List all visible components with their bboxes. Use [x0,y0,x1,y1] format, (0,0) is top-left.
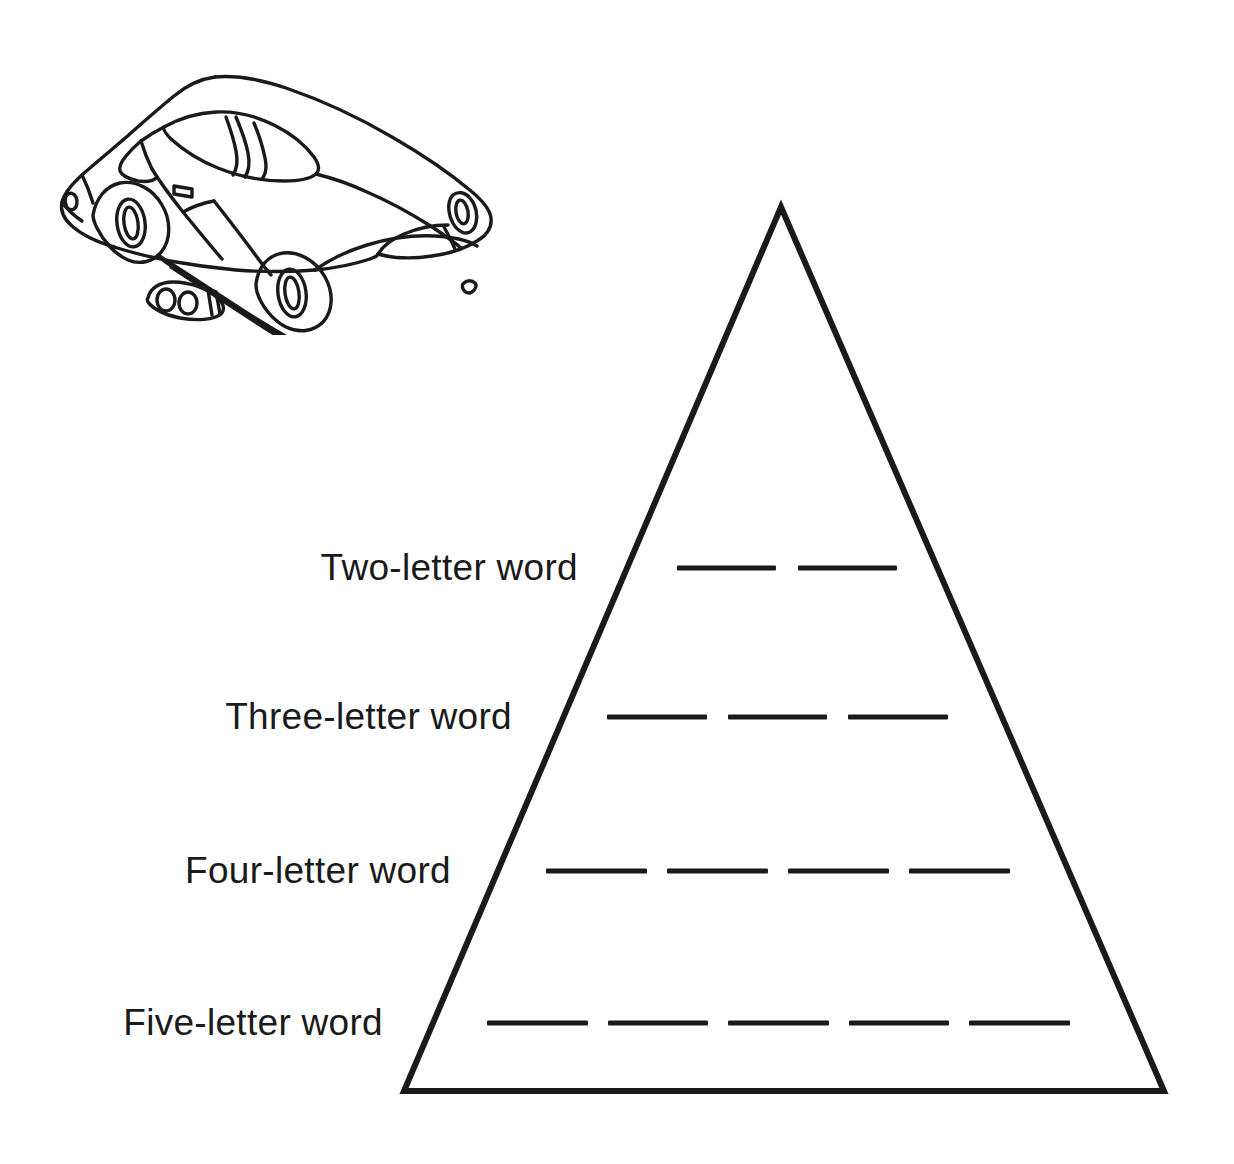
row-label-five-letter: Five-letter word [0,1002,383,1044]
row-label-two-letter: Two-letter word [0,547,578,589]
blank-row-five-letter[interactable] [487,1021,1070,1026]
blank-line[interactable] [798,566,897,571]
blank-line[interactable] [848,715,948,720]
blank-line[interactable] [849,1021,950,1026]
blank-line[interactable] [667,869,768,874]
blank-line[interactable] [607,715,707,720]
blank-line[interactable] [788,869,889,874]
blank-row-two-letter[interactable] [677,566,897,571]
blank-line[interactable] [728,1021,829,1026]
blank-row-four-letter[interactable] [546,869,1010,874]
blank-row-three-letter[interactable] [607,715,948,720]
car-illustration [40,55,510,335]
row-label-three-letter: Three-letter word [0,696,512,738]
blank-line[interactable] [546,869,647,874]
blank-line[interactable] [728,715,828,720]
blank-line[interactable] [608,1021,709,1026]
row-label-four-letter: Four-letter word [0,850,451,892]
worksheet-page: Two-letter word Three-letter word Four-l… [0,0,1234,1164]
blank-line[interactable] [969,1021,1070,1026]
blank-line[interactable] [909,869,1010,874]
blank-line[interactable] [677,566,776,571]
blank-line[interactable] [487,1021,588,1026]
